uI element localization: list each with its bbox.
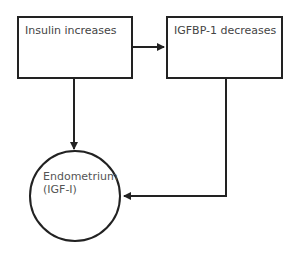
igfbp1-label: IGFBP-1 decreases xyxy=(174,24,276,37)
endometrium-label: Endometrium (IGF-I) xyxy=(43,170,118,196)
igfbp1-node: IGFBP-1 decreases xyxy=(166,16,283,79)
insulin-node: Insulin increases xyxy=(17,16,133,79)
endometrium-node xyxy=(30,151,120,241)
insulin-label: Insulin increases xyxy=(25,24,117,37)
endometrium-label-line1: Endometrium xyxy=(43,170,118,183)
arrow-igfbp1-to-endometrium xyxy=(124,78,226,196)
endometrium-label-line2: (IGF-I) xyxy=(43,183,118,196)
